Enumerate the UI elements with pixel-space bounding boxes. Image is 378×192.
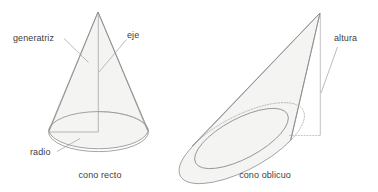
label-eje: eje bbox=[127, 30, 139, 41]
caption-cono-oblicuo: cono oblicuo bbox=[222, 170, 308, 181]
oblique-cone-lateral-surface bbox=[179, 13, 320, 184]
oblique-cone-group bbox=[179, 13, 337, 184]
label-radio: radio bbox=[30, 147, 51, 158]
diagram-canvas bbox=[0, 0, 378, 192]
caption-cono-recto: cono recto bbox=[60, 170, 140, 181]
altura-leader-line bbox=[321, 47, 338, 93]
label-altura: altura bbox=[334, 33, 357, 44]
cone-diagram-figure: generatriz eje radio altura cono recto c… bbox=[0, 0, 378, 192]
label-generatriz: generatriz bbox=[13, 33, 54, 44]
